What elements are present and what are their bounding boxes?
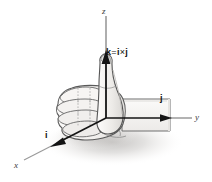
figure-canvas: [0, 0, 212, 182]
forearm: [122, 99, 170, 131]
i-vector-label: i: [45, 131, 48, 140]
thumb: [97, 54, 123, 134]
equation-j-term: j: [125, 47, 128, 57]
z-axis-label: z: [102, 7, 106, 16]
x-axis-label: x: [14, 161, 18, 170]
j-vector-label: j: [160, 94, 163, 103]
right-hand-rule-figure: z y x j i k=i×j: [0, 0, 212, 182]
y-axis-label: y: [195, 113, 199, 122]
cross-product-equation: k=i×j: [106, 48, 128, 57]
